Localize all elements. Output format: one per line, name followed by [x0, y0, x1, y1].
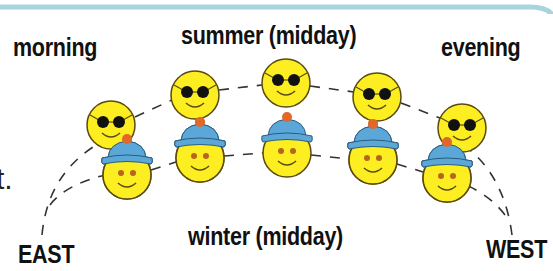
sun-face-with-sunglasses-icon	[171, 71, 219, 119]
label-east: EAST	[18, 240, 74, 269]
label-summer-midday: summer (midday)	[181, 21, 356, 50]
sun-face-with-hat-icon	[262, 112, 313, 177]
label-morning: morning	[13, 33, 97, 62]
label-evening: evening	[441, 33, 520, 62]
sun-face-with-sunglasses-icon	[262, 59, 310, 107]
sun-face-with-hat-icon	[348, 119, 399, 184]
winter-sun-path	[102, 112, 473, 202]
label-west: WEST	[486, 235, 547, 264]
sun-face-with-hat-icon	[175, 117, 226, 182]
sun-face-with-sunglasses-icon	[353, 73, 401, 121]
label-winter-midday: winter (midday)	[188, 222, 343, 251]
